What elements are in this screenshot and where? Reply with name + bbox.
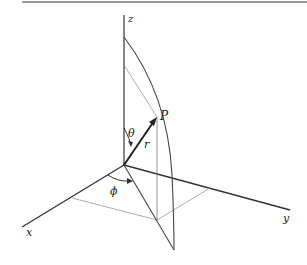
- theta-label: θ: [128, 127, 135, 140]
- y-axis: [124, 165, 290, 210]
- radius-arrowhead-icon: [149, 117, 157, 126]
- theta-arrowhead-icon: [128, 141, 133, 147]
- radius-label: r: [144, 138, 150, 151]
- y-projection-line: [157, 188, 210, 220]
- x-axis: [22, 165, 124, 227]
- y-axis-label: y: [282, 212, 290, 225]
- azimuthal-plane-line: [124, 165, 174, 250]
- chord-line: [124, 65, 157, 117]
- x-axis-label: x: [26, 226, 33, 239]
- z-axis-label: z: [127, 13, 134, 24]
- x-projection-line: [72, 198, 157, 220]
- phi-label: ϕ: [110, 185, 118, 198]
- point-p-label: P: [159, 109, 169, 123]
- spherical-coordinates-diagram: z x y P r θ ϕ: [0, 0, 307, 265]
- phi-arc: [108, 175, 130, 181]
